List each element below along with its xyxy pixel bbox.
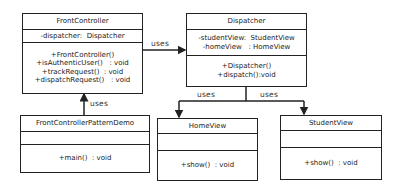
method: +trackRequest() : void <box>23 68 142 77</box>
method: +Dispatcher() <box>187 62 306 71</box>
attribute: -homeView : HomeView <box>187 43 306 52</box>
method: +isAuthenticUser() : void <box>23 59 142 68</box>
uses-label-dispatcher-home: uses <box>197 90 215 99</box>
class-methods: +main() : void <box>21 145 149 171</box>
class-name: FrontControllerPatternDemo <box>21 116 149 132</box>
class-attributes: -dispatcher: Dispatcher <box>23 30 142 43</box>
class-name: StudentView <box>281 116 381 131</box>
method: +show() : void <box>281 159 381 168</box>
method: +dispatchRequest() : void <box>23 76 142 85</box>
class-methods: +show() : void <box>158 151 257 179</box>
method: +dispatch():void <box>187 71 306 80</box>
method: +show() : void <box>158 161 257 170</box>
class-name: Dispatcher <box>187 14 306 30</box>
class-front-controller-pattern-demo: FrontControllerPatternDemo +main() : voi… <box>20 115 150 173</box>
class-attributes <box>21 132 149 145</box>
class-home-view: HomeView +show() : void <box>157 118 258 181</box>
method: +FrontController() <box>23 51 142 60</box>
class-methods: +show() : void <box>281 148 381 178</box>
attribute: -dispatcher: Dispatcher <box>23 32 142 41</box>
class-methods: +Dispatcher() +dispatch():void <box>187 56 306 85</box>
uses-label-fc-dispatcher: uses <box>151 39 169 48</box>
class-attributes <box>158 134 257 151</box>
class-methods: +FrontController() +isAuthenticUser() : … <box>23 43 142 92</box>
class-student-view: StudentView +show() : void <box>280 115 382 180</box>
attribute: -studentView: StudentView <box>187 34 306 43</box>
class-dispatcher: Dispatcher -studentView: StudentView -ho… <box>186 13 307 87</box>
uses-label-demo-fc: uses <box>90 99 108 108</box>
class-attributes: -studentView: StudentView -homeView : Ho… <box>187 30 306 56</box>
class-front-controller: FrontController -dispatcher: Dispatcher … <box>22 13 143 94</box>
uses-label-dispatcher-student: uses <box>260 90 278 99</box>
class-name: HomeView <box>158 119 257 134</box>
method: +main() : void <box>21 154 149 163</box>
class-name: FrontController <box>23 14 142 30</box>
class-attributes <box>281 131 381 148</box>
